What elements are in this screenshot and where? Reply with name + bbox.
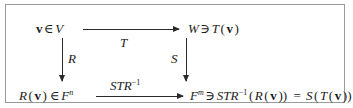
arrow-label-t: T bbox=[120, 36, 127, 49]
arrow-bottom-horizontal bbox=[96, 96, 183, 97]
arrow-top-horizontal bbox=[83, 29, 179, 30]
label-str-base: STR bbox=[110, 78, 132, 93]
map-r-symbol: R bbox=[255, 88, 263, 103]
node-top-left: v∈V bbox=[36, 22, 63, 35]
open-paren: ( bbox=[313, 88, 320, 103]
space-w-symbol: W bbox=[188, 21, 199, 36]
open-paren: ( bbox=[247, 88, 254, 103]
vector-v-symbol: v bbox=[36, 21, 43, 36]
arrow-right-vertical bbox=[186, 38, 187, 81]
node-bottom-right: Fm∋STR−1(R(v)) = S(T(v)) bbox=[190, 89, 353, 102]
close-paren: ) bbox=[233, 21, 240, 36]
map-r-symbol: R bbox=[19, 88, 27, 103]
arrow-label-r: R bbox=[68, 52, 76, 65]
node-top-right: W∋T(v) bbox=[188, 22, 241, 35]
node-bottom-left: R(v)∈Fn bbox=[19, 89, 73, 102]
composite-str-symbol: STR bbox=[217, 88, 239, 103]
map-s-symbol: S bbox=[306, 88, 313, 103]
contains-symbol: ∋ bbox=[204, 88, 217, 103]
element-of-symbol: ∈ bbox=[49, 88, 62, 103]
arrow-left-vertical bbox=[62, 38, 63, 81]
space-f-symbol: F bbox=[190, 88, 198, 103]
vector-v-symbol: v bbox=[270, 88, 277, 103]
transform-t-symbol: T bbox=[212, 21, 219, 36]
close-paren: )) bbox=[277, 88, 289, 103]
exponent-n: n bbox=[69, 88, 73, 97]
equals-symbol: = bbox=[289, 88, 306, 103]
open-paren: ( bbox=[327, 88, 334, 103]
figure-border: v∈V W∋T(v) R(v)∈Fn Fm∋STR−1(R(v)) = S(T(… bbox=[5, 4, 345, 103]
contains-symbol: ∋ bbox=[199, 21, 212, 36]
label-str-exponent: −1 bbox=[132, 78, 141, 87]
close-paren: ) bbox=[41, 88, 48, 103]
arrow-label-s: S bbox=[171, 52, 178, 65]
arrow-label-str-inverse: STR−1 bbox=[110, 79, 140, 92]
close-paren: )) bbox=[341, 88, 353, 103]
space-v-symbol: V bbox=[55, 21, 63, 36]
element-of-symbol: ∈ bbox=[43, 21, 56, 36]
